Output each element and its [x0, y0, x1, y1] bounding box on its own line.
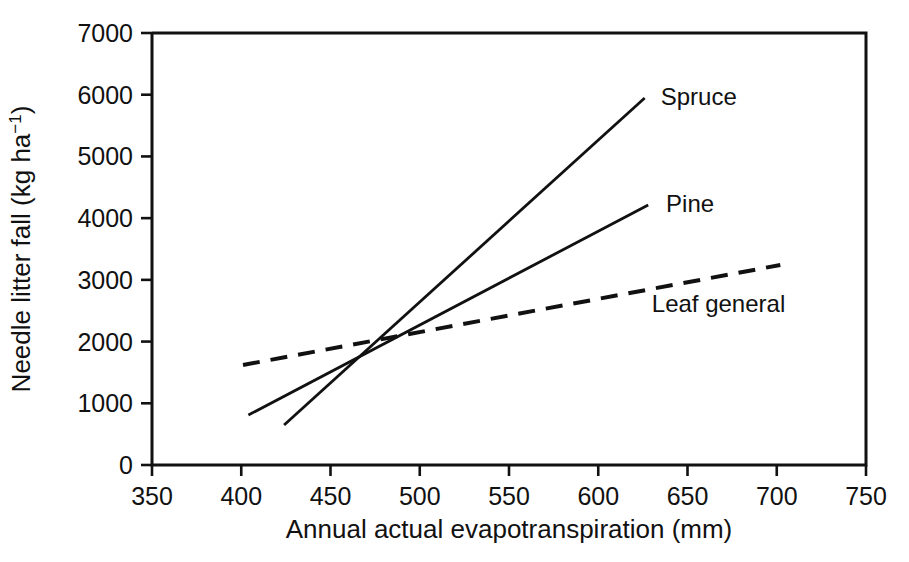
x-tick-label: 650 — [667, 482, 709, 510]
x-tick-label: 750 — [845, 482, 887, 510]
y-tick-label: 3000 — [77, 266, 133, 294]
x-tick-label: 600 — [577, 482, 619, 510]
x-tick-label: 350 — [131, 482, 173, 510]
y-axis-title: Needle litter fall (kg ha−1) — [6, 106, 37, 393]
x-tick-label: 550 — [488, 482, 530, 510]
chart-figure: 01000200030004000500060007000 3504004505… — [0, 0, 909, 562]
x-axis-tick-labels: 350400450500550600650700750 — [131, 482, 887, 510]
series-label-spruce: Spruce — [661, 83, 737, 110]
y-tick-label: 2000 — [77, 328, 133, 356]
y-tick-label: 0 — [119, 451, 133, 479]
y-tick-label: 4000 — [77, 204, 133, 232]
y-tick-label: 6000 — [77, 81, 133, 109]
x-tick-label: 400 — [220, 482, 262, 510]
series-label-leaf-general: Leaf general — [652, 290, 785, 317]
y-tick-label: 1000 — [77, 389, 133, 417]
series-label-pine: Pine — [666, 190, 714, 217]
y-tick-label: 7000 — [77, 19, 133, 47]
x-tick-label: 450 — [310, 482, 352, 510]
y-tick-label: 5000 — [77, 142, 133, 170]
chart-background — [0, 0, 909, 562]
x-axis-title: Annual actual evapotranspiration (mm) — [286, 514, 733, 544]
x-tick-label: 500 — [399, 482, 441, 510]
needle-litter-fall-chart: 01000200030004000500060007000 3504004505… — [0, 0, 909, 562]
x-tick-label: 700 — [756, 482, 798, 510]
